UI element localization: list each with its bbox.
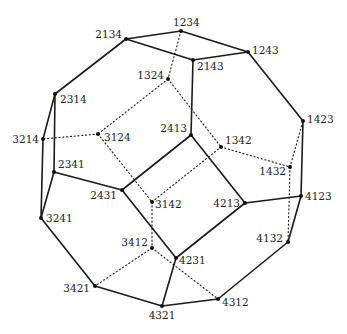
vertex-3142 [150, 200, 154, 204]
vertex-label-3241: 3241 [46, 212, 73, 224]
solid-edge-1243-2143 [193, 52, 248, 60]
solid-edge-4132-4312 [218, 242, 288, 299]
vertex-label-3214: 3214 [12, 133, 39, 145]
vertex-3241 [39, 216, 43, 220]
dotted-edge-3412-3421 [95, 248, 152, 286]
vertex-label-2341: 2341 [58, 158, 85, 170]
vertex-3124 [96, 132, 100, 136]
vertex-label-4231: 4231 [179, 254, 206, 266]
dotted-edge-1432-4132 [288, 167, 290, 242]
vertex-label-4321: 4321 [149, 309, 176, 321]
vertex-1234 [179, 29, 183, 33]
solid-edge-2314-3214 [43, 94, 55, 139]
solid-edge-1234-1243 [181, 31, 248, 52]
vertex-label-2143: 2143 [197, 60, 224, 72]
solid-edge-4213-4123 [245, 196, 301, 203]
solid-edge-2413-2431 [122, 135, 191, 190]
solid-edge-1423-4123 [301, 121, 303, 196]
vertex-label-3142: 3142 [155, 198, 182, 210]
vertex-label-2413: 2413 [160, 122, 187, 134]
vertex-label-1423: 1423 [307, 113, 334, 125]
vertex-1324 [166, 77, 170, 81]
vertex-1243 [246, 50, 250, 54]
vertex-3214 [41, 137, 45, 141]
vertex-4123 [299, 194, 303, 198]
vertex-label-1324: 1324 [137, 69, 164, 81]
vertex-label-2134: 2134 [95, 28, 122, 40]
vertex-2143 [191, 58, 195, 62]
vertex-label-1432: 1432 [259, 165, 286, 177]
vertex-2341 [52, 170, 56, 174]
permutohedron-diagram: 1234213412432143132423143214312424131342… [0, 0, 347, 334]
solid-edge-2341-2431 [54, 172, 122, 190]
dotted-edge-1432-1423 [290, 121, 303, 167]
vertex-4132 [286, 240, 290, 244]
solid-edge-4213-4231 [176, 203, 245, 258]
solid-edge-4231-4321 [162, 258, 176, 306]
vertex-3421 [93, 284, 97, 288]
vertex-2413 [189, 133, 193, 137]
dotted-edge-1324-1342 [168, 79, 221, 147]
solid-edge-2314-2341 [54, 94, 55, 172]
vertex-1342 [219, 145, 223, 149]
solid-edge-1234-2134 [126, 31, 181, 39]
solid-edge-1243-1423 [248, 52, 303, 121]
vertex-label-4132: 4132 [256, 232, 283, 244]
solid-edge-4321-4312 [162, 299, 218, 306]
vertex-4231 [174, 256, 178, 260]
vertex-4321 [160, 304, 164, 308]
vertex-4213 [243, 201, 247, 205]
solid-edge-3241-3421 [41, 218, 95, 286]
dotted-edge-1324-3124 [98, 79, 168, 134]
dotted-edge-3142-1342 [152, 147, 221, 202]
vertex-2431 [120, 188, 124, 192]
vertex-1423 [301, 119, 305, 123]
vertex-label-3412: 3412 [121, 236, 148, 248]
vertex-label-4213: 4213 [213, 197, 240, 209]
vertex-label-3421: 3421 [63, 282, 90, 294]
vertex-1432 [288, 165, 292, 169]
solid-edge-2134-2314 [55, 39, 126, 94]
solid-edge-3214-3241 [41, 139, 43, 218]
vertex-label-1342: 1342 [225, 134, 252, 146]
vertex-label-1243: 1243 [252, 44, 279, 56]
vertex-label-2314: 2314 [60, 93, 87, 105]
vertex-label-4123: 4123 [305, 190, 332, 202]
vertex-2314 [53, 92, 57, 96]
vertex-label-1234: 1234 [173, 16, 200, 28]
solid-edge-2143-2413 [191, 60, 193, 135]
vertex-label-2431: 2431 [90, 189, 117, 201]
dotted-edge-3124-3214 [43, 134, 98, 139]
vertex-4312 [216, 297, 220, 301]
solid-edge-2134-2143 [126, 39, 193, 60]
solid-edge-4123-4132 [288, 196, 301, 242]
dotted-edge-1342-1432 [221, 147, 290, 167]
vertex-3412 [150, 246, 154, 250]
vertex-2134 [124, 37, 128, 41]
vertex-label-4312: 4312 [222, 296, 249, 308]
solid-edge-3421-4321 [95, 286, 162, 306]
vertex-label-3124: 3124 [104, 131, 131, 143]
